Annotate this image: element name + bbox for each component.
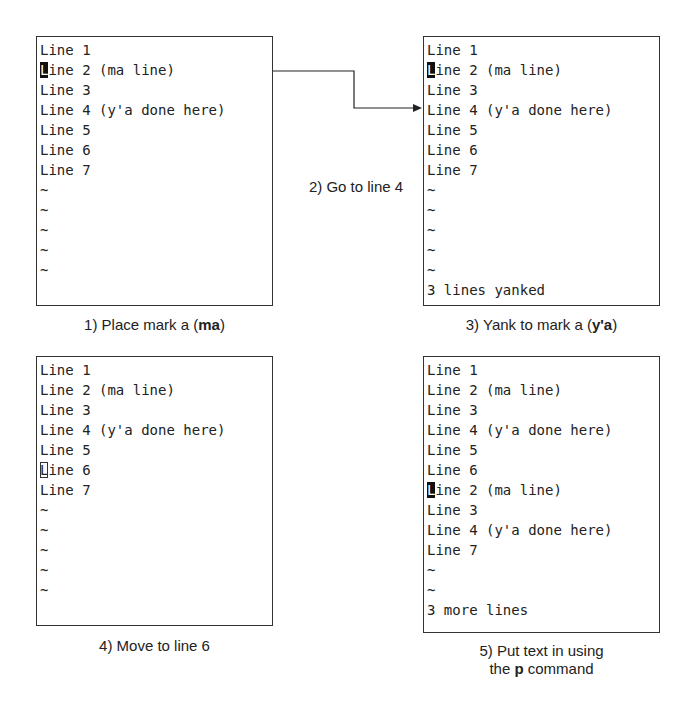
- buffer-line: Line 2 (ma line): [40, 380, 272, 400]
- empty-line-tilde: ~: [40, 200, 272, 220]
- empty-line-tilde: ~: [40, 540, 272, 560]
- caption-step4: 4) Move to line 6: [36, 637, 273, 655]
- caption-step5: 5) Put text in using the p command: [423, 642, 660, 678]
- buffer-line: Line 4 (y'a done here): [40, 420, 272, 440]
- empty-line-tilde: ~: [427, 560, 659, 580]
- buffer-line: Line 2 (ma line): [427, 480, 659, 500]
- buffer-line: Line 5: [40, 440, 272, 460]
- cursor: L: [427, 482, 435, 498]
- caption-step2: 2) Go to line 4: [296, 178, 416, 196]
- buffer-line: Line 1: [427, 360, 659, 380]
- empty-line-tilde: ~: [40, 580, 272, 600]
- buffer-line: Line 6: [427, 140, 659, 160]
- empty-line-tilde: ~: [427, 580, 659, 600]
- buffer-line: Line 5: [427, 120, 659, 140]
- buffer-line: Line 5: [427, 440, 659, 460]
- cursor: L: [40, 462, 48, 478]
- buffer-line: Line 7: [427, 540, 659, 560]
- buffer-line: Line 1: [40, 40, 272, 60]
- buffer-line: Line 3: [427, 500, 659, 520]
- buffer-line: Line 4 (y'a done here): [427, 420, 659, 440]
- empty-line-tilde: ~: [40, 240, 272, 260]
- buffer-line: Line 7: [40, 480, 272, 500]
- buffer-line: Line 7: [427, 160, 659, 180]
- buffer-line: Line 6: [40, 460, 272, 480]
- buffer-line: Line 7: [40, 160, 272, 180]
- empty-line-tilde: ~: [40, 220, 272, 240]
- empty-line-tilde: ~: [427, 180, 659, 200]
- empty-line-tilde: ~: [40, 500, 272, 520]
- buffer-line: Line 1: [427, 40, 659, 60]
- empty-line-tilde: ~: [427, 220, 659, 240]
- empty-line-tilde: ~: [427, 200, 659, 220]
- buffer-line: Line 6: [427, 460, 659, 480]
- empty-line-tilde: ~: [40, 560, 272, 580]
- vi-screen-step3: Line 1Line 2 (ma line)Line 3Line 4 (y'a …: [423, 36, 660, 306]
- empty-line-tilde: ~: [427, 260, 659, 280]
- status-message: 3 lines yanked: [427, 280, 659, 300]
- buffer-line: Line 4 (y'a done here): [40, 100, 272, 120]
- cursor: L: [427, 62, 435, 78]
- buffer-line: Line 3: [40, 400, 272, 420]
- buffer-line: Line 1: [40, 360, 272, 380]
- empty-line-tilde: ~: [40, 260, 272, 280]
- vi-screen-step4: Line 1Line 2 (ma line)Line 3Line 4 (y'a …: [36, 356, 273, 626]
- buffer-line: [40, 280, 272, 300]
- empty-line-tilde: ~: [40, 180, 272, 200]
- empty-line-tilde: ~: [427, 240, 659, 260]
- buffer-line: Line 3: [427, 80, 659, 100]
- buffer-line: Line 4 (y'a done here): [427, 520, 659, 540]
- buffer-line: [40, 600, 272, 620]
- buffer-line: Line 2 (ma line): [427, 60, 659, 80]
- vi-screen-step1: Line 1Line 2 (ma line)Line 3Line 4 (y'a …: [36, 36, 273, 306]
- buffer-line: Line 4 (y'a done here): [427, 100, 659, 120]
- buffer-line: Line 5: [40, 120, 272, 140]
- caption-step3: 3) Yank to mark a (y'a): [423, 316, 660, 334]
- buffer-line: Line 2 (ma line): [40, 60, 272, 80]
- vi-screen-step5: Line 1Line 2 (ma line)Line 3Line 4 (y'a …: [423, 356, 660, 633]
- buffer-line: Line 3: [427, 400, 659, 420]
- caption-step1: 1) Place mark a (ma): [36, 316, 273, 334]
- buffer-line: Line 6: [40, 140, 272, 160]
- buffer-line: Line 2 (ma line): [427, 380, 659, 400]
- buffer-line: Line 3: [40, 80, 272, 100]
- cursor: L: [40, 62, 48, 78]
- empty-line-tilde: ~: [40, 520, 272, 540]
- status-message: 3 more lines: [427, 600, 659, 620]
